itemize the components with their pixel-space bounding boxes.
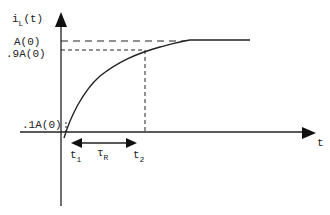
full-level-label: A(0) [14, 36, 40, 48]
left-arrowhead-icon [71, 138, 82, 148]
x-axis-arrow-icon [302, 127, 316, 139]
t1-label: t1 [70, 149, 82, 164]
y-axis-arrow-icon [55, 12, 67, 27]
t2-label: t2 [133, 149, 145, 164]
y-axis-label: iL(t) [12, 13, 43, 28]
rise-time-diagram: iL(t) A(0) .9A(0) .1A(0) t t1 τR t2 [0, 0, 330, 215]
ninety-level-label: .9A(0) [6, 48, 46, 60]
x-axis-label: t [317, 137, 324, 149]
ten-level-label: .1A(0) [22, 119, 62, 131]
response-curve [64, 40, 250, 138]
right-arrowhead-icon [126, 138, 137, 148]
rise-time-label: τR [97, 147, 109, 162]
